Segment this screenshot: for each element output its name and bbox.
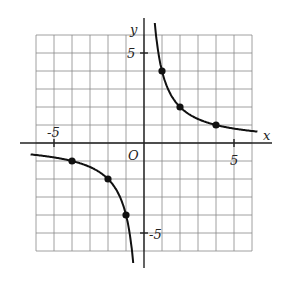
x-axis-label: x [263,128,271,143]
x-tick-label-neg5: -5 [47,125,60,140]
y-tick-label-5: 5 [127,46,135,61]
y-axis-label: y [129,22,138,37]
x-tick-label-5: 5 [230,153,238,168]
graph-canvas: x y O -5 5 5 -5 [0,0,285,286]
origin-label: O [128,148,139,163]
y-tick-label-neg5: -5 [149,227,162,242]
